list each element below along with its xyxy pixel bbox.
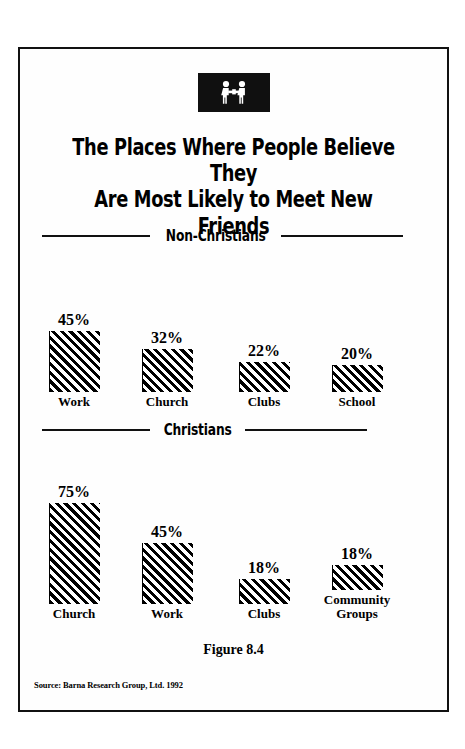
section-divider-non-christians: Non-Christians (20, 227, 447, 245)
bar-item: 45% Work (28, 312, 120, 409)
bar-shape (49, 331, 100, 392)
bar-item: 75% Church (28, 484, 120, 621)
section-christians: Christians 75% Church 45% Work 18% Clu (20, 421, 447, 621)
bar-value-label: 32% (121, 330, 213, 346)
bar-value-label: 45% (28, 312, 120, 328)
bar-value-label: 18% (311, 546, 403, 562)
figure-frame: The Places Where People Believe They Are… (18, 47, 449, 712)
bar-category-label: Work (28, 395, 120, 409)
emblem-container (20, 73, 447, 112)
bar-shape (142, 349, 193, 392)
bar-item: 22% Clubs (218, 343, 310, 409)
divider-rule-right (281, 235, 403, 237)
section-label-non-christians: Non-Christians (166, 227, 266, 245)
handshake-icon (198, 73, 270, 112)
bar-shape (142, 543, 193, 604)
section-non-christians: Non-Christians 45% Work 32% Church 22% (20, 227, 447, 409)
divider-rule-left (42, 429, 150, 431)
bar-group-non-christians: 45% Work 32% Church 22% Clubs 20% (20, 249, 447, 409)
divider-rule-left (42, 235, 150, 237)
bar-value-label: 45% (121, 524, 213, 540)
bar-shape (332, 565, 383, 590)
bar-item: 32% Church (121, 330, 213, 409)
bar-category-label: Clubs (218, 395, 310, 409)
bar-category-label: Church (28, 607, 120, 621)
bar-category-label: School (311, 395, 403, 409)
figure-title: The Places Where People Believe They Are… (58, 134, 408, 239)
bar-category-label: Community Groups (311, 593, 403, 621)
source-note: Source: Barna Research Group, Ltd. 1992 (34, 680, 183, 690)
bar-group-christians: 75% Church 45% Work 18% Clubs 18% (20, 443, 447, 621)
section-label-christians: Christians (164, 421, 232, 439)
bar-category-label: Work (121, 607, 213, 621)
bar-item: 18% Community Groups (311, 546, 403, 621)
bar-shape (239, 579, 290, 604)
bar-item: 18% Clubs (218, 560, 310, 621)
bar-item: 20% School (311, 346, 403, 409)
bar-value-label: 18% (218, 560, 310, 576)
bar-shape (332, 365, 383, 392)
figure-caption: Figure 8.4 (20, 642, 447, 658)
bar-value-label: 22% (218, 343, 310, 359)
bar-value-label: 75% (28, 484, 120, 500)
divider-rule-right (245, 429, 367, 431)
section-divider-christians: Christians (20, 421, 447, 439)
bar-value-label: 20% (311, 346, 403, 362)
bar-category-label: Clubs (218, 607, 310, 621)
bar-shape (49, 503, 100, 604)
bar-category-label: Church (121, 395, 213, 409)
bar-item: 45% Work (121, 524, 213, 621)
bar-shape (239, 362, 290, 392)
